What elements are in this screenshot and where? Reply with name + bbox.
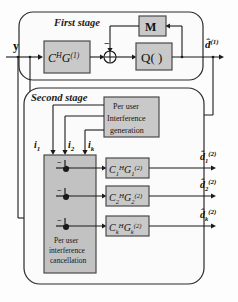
cancel-minus-row1: −: [57, 158, 62, 167]
second-stage-label: Second stage: [31, 92, 88, 103]
cancel-minus-row3: −: [57, 216, 62, 225]
quantizer-label: Q( ): [141, 50, 162, 65]
input-branch-node: [17, 56, 20, 59]
intgen-line3: generation: [110, 126, 144, 135]
cancel-line1: Per user: [54, 236, 79, 245]
second-output-label-1: d̂1(2): [200, 150, 216, 164]
intgen-line2: Interference: [107, 114, 146, 123]
cancel-line2: interference: [49, 246, 85, 255]
first-output-label: d̂(1): [205, 38, 219, 50]
output-arrowhead-3: [211, 223, 216, 228]
block-diagram: First stage y CHG(1) − Q( ): [0, 0, 238, 302]
output-arrowhead-2: [211, 193, 216, 198]
intgen-line1: Per user: [113, 102, 139, 111]
input-signal-label: y: [13, 39, 19, 53]
sum-minus-sign: −: [104, 38, 110, 49]
first-output-arrowhead: [219, 54, 224, 59]
output-arrowhead-1: [211, 165, 216, 170]
first-stage-label: First stage: [53, 17, 100, 28]
input-branch-node-2: [29, 56, 32, 59]
second-output-label-2: d̂2(2): [200, 178, 216, 192]
memory-label: M: [145, 20, 156, 34]
first-output-label-group: d̂(1): [205, 38, 219, 50]
second-output-label-3: d̂k(2): [200, 208, 216, 222]
cancel-minus-row2: −: [57, 186, 62, 195]
cancel-line3: cancellation: [50, 256, 86, 265]
diagram-canvas: First stage y CHG(1) − Q( ): [0, 0, 238, 302]
